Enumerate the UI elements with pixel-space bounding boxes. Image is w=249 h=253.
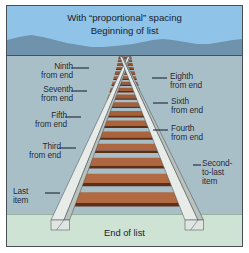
tie xyxy=(94,131,156,139)
tie xyxy=(71,192,180,206)
label-fifth-from-end: Fifth from end xyxy=(7,111,67,129)
figure-frame: With “proportional” spacing Beginning of… xyxy=(6,5,243,247)
label-seventh-from-end: Seventh from end xyxy=(7,85,73,103)
figure-title-line1: With “proportional” spacing xyxy=(7,12,242,25)
tie xyxy=(84,158,166,169)
proportional-spacing-figure: With “proportional” spacing Beginning of… xyxy=(0,0,249,253)
label-third-from-end: Third from end xyxy=(7,142,61,160)
figure-title-line2: Beginning of list xyxy=(7,25,242,38)
label-sixth-from-end: Sixth from end xyxy=(171,97,241,115)
label-ninth-from-end: Ninth from end xyxy=(7,62,73,80)
tie xyxy=(89,144,160,153)
label-fourth-from-end: Fourth from end xyxy=(171,124,241,142)
figure-footer: End of list xyxy=(7,228,242,238)
label-last-item: Last item xyxy=(13,187,57,205)
label-second-to-last-item: Second- to-last item xyxy=(202,159,243,187)
label-eighth-from-end: Eighth from end xyxy=(170,72,242,90)
tie xyxy=(78,174,172,186)
